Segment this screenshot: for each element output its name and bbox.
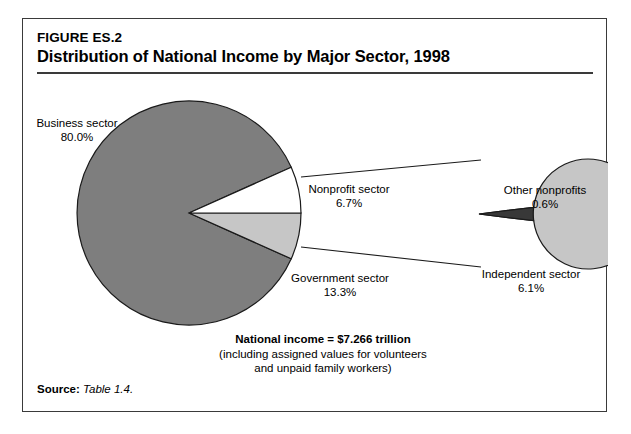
label-government-sector-name: Government sector (291, 272, 389, 284)
label-independent-sector: Independent sector 6.1% (473, 268, 589, 295)
label-government-sector-value: 13.3% (324, 286, 357, 298)
label-business-sector-name: Business sector (36, 117, 117, 129)
caption-total-line: National income = $7.266 trillion (153, 332, 493, 347)
label-business-sector-value: 80.0% (61, 131, 94, 143)
label-other-nonprofits: Other nonprofits 0.6% (491, 184, 599, 211)
label-nonprofit-sector-name: Nonprofit sector (308, 183, 389, 195)
label-independent-sector-value: 6.1% (518, 282, 544, 294)
breakout-pie (479, 159, 608, 269)
label-government-sector: Government sector 13.3% (281, 272, 399, 299)
chart-caption: National income = $7.266 trillion (inclu… (153, 332, 493, 376)
callout-leader-lines (301, 160, 481, 267)
source-value: Table 1.4. (83, 383, 133, 395)
caption-note-line-1: (including assigned values for volunteer… (153, 347, 493, 362)
caption-note-line-2: and unpaid family workers) (153, 361, 493, 376)
label-other-nonprofits-name: Other nonprofits (504, 184, 586, 196)
label-other-nonprofits-value: 0.6% (532, 198, 558, 210)
figure-frame: FIGURE ES.2 Distribution of National Inc… (22, 18, 607, 412)
label-nonprofit-sector-value: 6.7% (336, 197, 362, 209)
label-independent-sector-name: Independent sector (482, 268, 580, 280)
source-note: Source: Table 1.4. (37, 383, 133, 395)
label-business-sector: Business sector 80.0% (31, 117, 123, 144)
source-label: Source: (37, 383, 80, 395)
label-nonprofit-sector: Nonprofit sector 6.7% (301, 183, 397, 210)
